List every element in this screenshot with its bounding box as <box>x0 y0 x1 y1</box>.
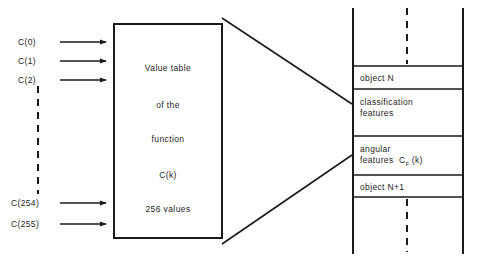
input-label-c254: C(254) <box>11 199 39 208</box>
angular-features-word: features <box>360 155 394 165</box>
projection-line-bottom <box>222 155 352 244</box>
angular-line-2: features CF (k) <box>360 155 423 170</box>
classification-line-2: features <box>360 108 413 119</box>
value-box-line-5: 256 values <box>114 205 222 214</box>
value-box-line-2: of the <box>114 101 222 110</box>
angular-line-1: angular <box>360 144 391 154</box>
classification-line-1: classification <box>360 97 413 107</box>
record-row-separators <box>353 66 463 197</box>
value-box-line-1: Value table <box>114 64 222 73</box>
angular-symbol-subscript: F <box>405 161 409 167</box>
angular-symbol-argument: (k) <box>412 155 423 165</box>
projection-line-top <box>222 18 352 104</box>
record-row-angular-label: angular features CF (k) <box>360 144 423 170</box>
value-box-line-4: C(k) <box>114 171 222 180</box>
input-arrows <box>60 42 106 224</box>
record-row-object-n-label: object N <box>360 73 394 84</box>
input-label-c1: C(1) <box>18 57 36 66</box>
diagram-canvas <box>0 0 485 262</box>
input-label-c2: C(2) <box>18 76 36 85</box>
record-row-classification-label: classification features <box>360 97 413 119</box>
projection-lines <box>222 18 352 244</box>
value-table-diagram: C(0) C(1) C(2) C(254) C(255) Value table… <box>0 0 485 262</box>
input-label-c0: C(0) <box>18 38 36 47</box>
record-row-object-n1-label: object N+1 <box>360 182 404 193</box>
input-label-c255: C(255) <box>11 220 39 229</box>
value-box-line-3: function <box>114 135 222 144</box>
